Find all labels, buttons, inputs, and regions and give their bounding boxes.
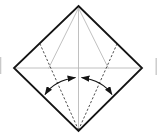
origami-diagram-canvas — [0, 0, 157, 140]
origami-diagram-svg — [0, 0, 157, 140]
